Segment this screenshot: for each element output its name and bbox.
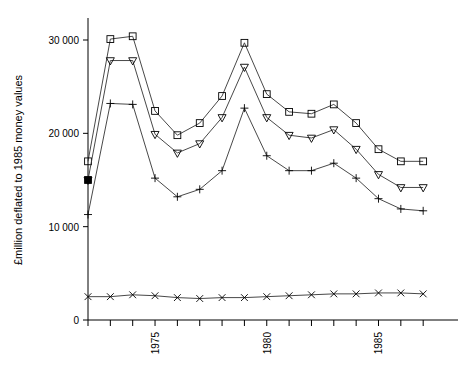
series-group-series-plus — [84, 99, 427, 218]
line-chart: 010 00020 00030 000197519801985£million … — [0, 0, 474, 365]
chart-container: 010 00020 00030 000197519801985£million … — [0, 0, 474, 365]
data-point-marker — [307, 135, 315, 142]
data-point-marker — [419, 185, 427, 192]
filled-square-marker — [85, 177, 92, 184]
data-point-marker — [151, 131, 159, 138]
series-path-series-cross — [88, 293, 423, 299]
x-tick-label: 1975 — [150, 332, 161, 355]
series-group-series-cross — [85, 290, 427, 302]
x-tick-label: 1980 — [262, 332, 273, 355]
y-tick-label: 30 000 — [48, 35, 79, 46]
highlight-point-group — [85, 177, 92, 184]
data-point-marker — [374, 172, 382, 179]
data-point-marker — [263, 115, 271, 122]
y-axis-title: £million deflated to 1985 money values — [12, 74, 24, 265]
y-tick-label: 0 — [73, 315, 79, 326]
series-group-series-triangle-down — [84, 58, 427, 192]
data-point-marker — [173, 150, 181, 157]
y-tick-label: 10 000 — [48, 222, 79, 233]
series-group-series-square — [85, 33, 427, 165]
series-path-series-square — [88, 36, 423, 161]
series-path-series-plus — [88, 103, 423, 214]
x-tick-label: 1985 — [373, 332, 384, 355]
y-tick-label: 20 000 — [48, 128, 79, 139]
